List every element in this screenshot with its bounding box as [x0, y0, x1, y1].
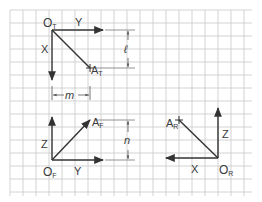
front-point-label: AF: [92, 116, 104, 129]
right-z-axis-label: Z: [222, 128, 229, 140]
front-origin-label: OF: [43, 165, 57, 179]
diagram-canvas: OT Y X AT ℓ m OF Z Y AF n OR Z X AR: [0, 0, 262, 202]
right-diagonal-line: [179, 120, 218, 158]
top-point-label: AT: [91, 64, 103, 77]
top-origin-label: OT: [43, 16, 57, 30]
dimension-l-label: ℓ: [123, 43, 128, 55]
front-y-axis-label: Y: [74, 165, 82, 177]
top-x-axis-label: X: [41, 43, 49, 55]
front-z-axis-label: Z: [41, 138, 48, 150]
orthographic-projection-diagram: OT Y X AT ℓ m OF Z Y AF n OR Z X AR: [0, 0, 262, 202]
right-point-label: AR: [166, 117, 178, 130]
right-x-axis-label: X: [191, 163, 199, 175]
dimension-n-label: n: [124, 134, 130, 146]
top-y-axis-label: Y: [75, 16, 83, 28]
dimension-m-label: m: [65, 89, 74, 101]
